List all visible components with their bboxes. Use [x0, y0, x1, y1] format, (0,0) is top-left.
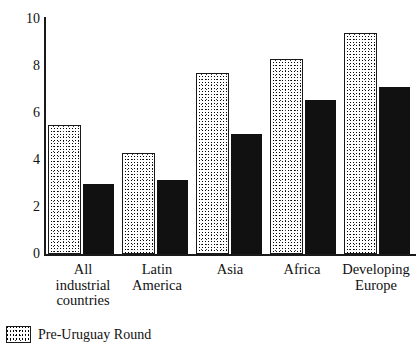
bar-group-africa [268, 19, 342, 254]
bar-group-developing-europe [342, 19, 416, 254]
bar-post-uruguay-round-developing-europe [379, 87, 410, 254]
bar-post-uruguay-round-latin-america [157, 180, 188, 254]
legend-label-pre-uruguay-round: Pre-Uruguay Round [38, 328, 151, 342]
x-label-asia: Asia [190, 262, 270, 278]
y-axis-ticks: 10 8 6 4 2 0 [4, 0, 40, 361]
x-label-africa: Africa [262, 262, 342, 278]
bar-group-all-industrial-countries [46, 19, 120, 254]
x-label-latin-america: Latin America [116, 262, 198, 293]
y-tick-2: 2 [8, 200, 40, 214]
y-tick-8: 8 [8, 59, 40, 73]
bar-post-uruguay-round-all-industrial-countries [83, 184, 114, 255]
bar-post-uruguay-round-africa [305, 100, 336, 254]
x-axis-line [44, 254, 416, 256]
bar-post-uruguay-round-asia [231, 134, 262, 254]
x-label-developing-europe: Developing Europe [332, 262, 420, 293]
bar-pre-uruguay-round-developing-europe [344, 33, 377, 254]
bar-pre-uruguay-round-asia [196, 73, 229, 254]
y-tick-10: 10 [8, 12, 40, 26]
y-tick-4: 4 [8, 153, 40, 167]
plot-area [46, 19, 415, 254]
y-tick-0: 0 [8, 247, 40, 261]
bar-chart: 10 8 6 4 2 0 All industrial countri [0, 0, 420, 361]
bar-pre-uruguay-round-latin-america [122, 153, 155, 254]
chart-legend: Pre-Uruguay Round [6, 326, 151, 343]
bar-pre-uruguay-round-africa [270, 59, 303, 254]
bar-group-asia [194, 19, 268, 254]
bar-pre-uruguay-round-all-industrial-countries [48, 125, 81, 254]
bar-group-latin-america [120, 19, 194, 254]
y-tick-6: 6 [8, 106, 40, 120]
x-label-all-industrial-countries: All industrial countries [38, 262, 128, 309]
legend-swatch-pre-uruguay-round [6, 326, 31, 343]
